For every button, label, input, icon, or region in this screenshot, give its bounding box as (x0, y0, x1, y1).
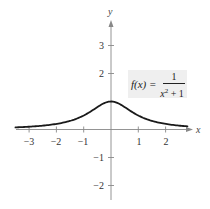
y-tick-label: −1 (93, 152, 104, 163)
function-graph: x y −3 −2 −1 1 2 3 2 −1 −2 (0, 0, 210, 209)
fraction-bar (163, 83, 185, 84)
x-tick-label: 2 (164, 136, 169, 147)
x-tick-label: −2 (51, 136, 62, 147)
y-axis-label: y (107, 6, 113, 17)
function-formula-label: f(x) = 1 x2 + 1 (128, 70, 187, 98)
formula-lhs: f(x) = (131, 78, 156, 90)
x-axis-label: x (195, 124, 201, 135)
function-curve (15, 102, 187, 128)
x-tick-labels: −3 −2 −1 1 2 (24, 136, 169, 147)
y-axis-arrow-icon (109, 20, 114, 27)
y-tick-label: −2 (93, 180, 104, 191)
y-tick-labels: 3 2 −1 −2 (93, 40, 104, 191)
y-tick-label: 3 (99, 40, 104, 51)
x-tick-label: −3 (24, 136, 35, 147)
formula-denominator-rest: + 1 (168, 88, 184, 99)
formula-numerator: 1 (163, 71, 185, 83)
x-tick-label: −1 (78, 136, 89, 147)
y-tick-label: 2 (99, 68, 104, 79)
formula-denominator: x2 + 1 (159, 85, 185, 100)
x-tick-label: 1 (137, 136, 142, 147)
x-axis-arrow-icon (186, 127, 193, 132)
formula-fraction: 1 x2 + 1 (163, 71, 185, 100)
